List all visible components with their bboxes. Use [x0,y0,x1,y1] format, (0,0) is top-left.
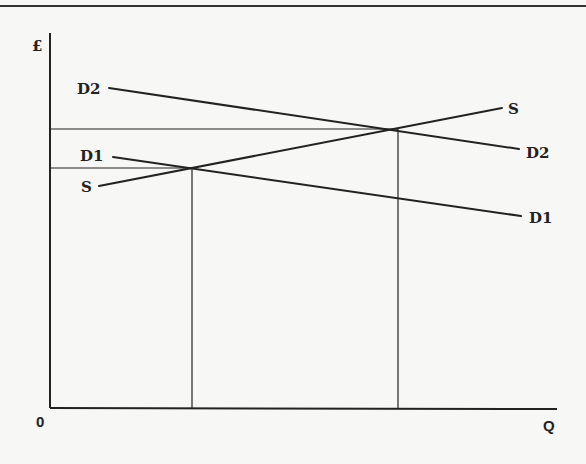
label-s-right: S [508,100,519,118]
supply-curve-s [99,108,502,186]
label-d1-right: D1 [529,209,552,227]
label-s-left: S [81,178,92,196]
x-axis-label: Q [543,417,555,434]
label-d2-left: D2 [77,80,100,98]
origin-label: 0 [36,413,44,430]
label-d2-right: D2 [526,144,549,162]
x-axis [50,408,557,409]
supply-demand-diagram: £ Q 0 D2 D1 S S D2 D1 [0,0,586,464]
demand-curve-d1 [113,157,521,216]
demand-curve-d2 [109,88,519,149]
label-d1-left: D1 [80,147,103,165]
y-axis-label: £ [32,37,42,55]
